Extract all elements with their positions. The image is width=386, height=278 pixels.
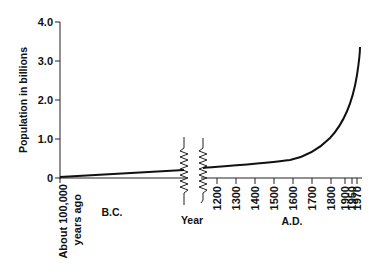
- y-tick-label: 0: [47, 172, 53, 184]
- x-tick-label: 1700: [306, 186, 318, 210]
- x-axis-title: Year: [181, 214, 203, 226]
- y-tick-label: 2.0: [38, 94, 53, 106]
- era-label-ad: A.D.: [282, 215, 303, 227]
- y-tick-label: 1.0: [38, 133, 53, 145]
- y-axis-ticks: 01.02.03.04.0: [38, 16, 60, 184]
- x-tick-label: 1200: [211, 186, 223, 210]
- x-axis-ticks: 1200130014001500160017001800190019501970: [211, 178, 363, 210]
- population-line-ad: [203, 47, 360, 168]
- era-label-bc: B.C.: [102, 206, 123, 218]
- y-tick-label: 3.0: [38, 55, 53, 67]
- x-label-start-line2: years ago: [71, 194, 83, 246]
- x-tick-label: 1800: [325, 186, 337, 210]
- axis-break-right: [199, 138, 207, 203]
- x-tick-label: 1400: [249, 186, 261, 210]
- population-chart: 01.02.03.04.0 Population in billions 120…: [0, 0, 386, 278]
- y-tick-label: 4.0: [38, 16, 53, 28]
- x-tick-label: 1300: [230, 186, 242, 210]
- x-tick-label: 1970: [351, 186, 363, 210]
- population-line-bc: [60, 170, 184, 177]
- y-axis-title: Population in billions: [17, 47, 29, 153]
- x-label-start-line1: About 100,000: [57, 184, 69, 259]
- x-tick-label: 1600: [287, 186, 299, 210]
- x-tick-label: 1500: [268, 186, 280, 210]
